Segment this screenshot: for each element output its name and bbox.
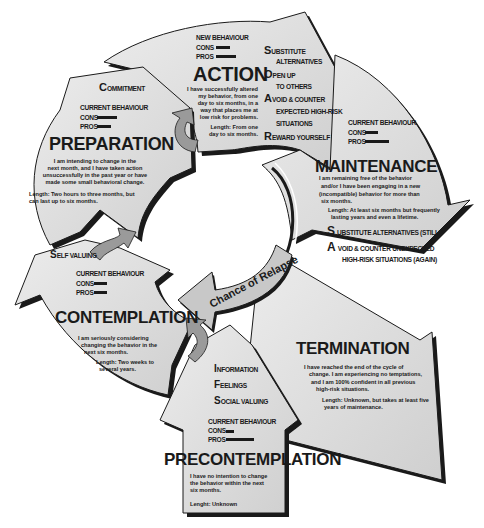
maintenance-length-line: Length: At least six months but frequent… [328, 207, 441, 213]
strategy-text: ALTERNATIVES [276, 58, 323, 65]
action-length-line: Length: From one [210, 124, 258, 130]
termination-desc-line: and I am 100% confident in all previous [311, 379, 415, 385]
contemplation-length-line: several years. [99, 366, 136, 372]
contemplation-desc-line: next six months. [84, 349, 129, 355]
preparation-length-line: Length: Two hours to three months, but [29, 191, 135, 197]
strategy-text: ELF VALUING [57, 252, 97, 259]
preparation-pros-bar [97, 125, 111, 128]
strategy-text: EELINGS [220, 382, 248, 389]
strategy-initial: S [264, 44, 271, 56]
maintenance-pros-bar [365, 140, 389, 143]
contemplation-desc-line: changing the behavior in the [81, 342, 157, 348]
contemplation-title: CONTEMPLATION [55, 308, 198, 327]
precontemplation-desc-line: six months. [190, 487, 222, 493]
contemplation-cons-label: CONS [76, 280, 95, 287]
strategy-text: UBSTITUTE [271, 48, 306, 55]
strategy-text: OMMITMENT [107, 85, 145, 92]
precontemplation-title: PRECONTEMPLATION [164, 450, 341, 469]
strategy-text: NFORMATION [217, 366, 259, 373]
preparation-desc-line: I am intending to change in the [54, 158, 136, 164]
preparation-length-line: can last up to six months. [29, 198, 98, 204]
contemplation-cons-bar [94, 282, 107, 285]
action-title: ACTION [193, 63, 268, 85]
preparation-pros-label: PROS [80, 123, 98, 130]
preparation-desc-line: next month, and I have taken action [48, 165, 143, 171]
action-desc-line: my behavior, from one [198, 93, 258, 99]
maintenance-desc-line: six months. [321, 198, 353, 204]
maintenance-length-line: lasting years and even a lifetime. [331, 214, 419, 220]
strategy-initial: A [327, 240, 336, 254]
action-desc-line: low risk for problems. [200, 114, 259, 120]
action-desc-line: I have successfully altered [187, 86, 258, 92]
action-behaviour-heading: NEW BEHAVIOUR [196, 34, 249, 41]
termination-title: TERMINATION [296, 339, 410, 358]
maintenance-desc-line: (incompatible) behavior for more than [319, 191, 420, 197]
maintenance-pros-label: PROS [348, 138, 366, 145]
preparation-behaviour-heading: CURRENT BEHAVIOUR [80, 104, 149, 111]
contemplation-behaviour-heading: CURRENT BEHAVIOUR [76, 270, 145, 277]
contemplation-desc-line: I am seriously considering [78, 335, 149, 341]
termination-desc-line: I have reached the end of the cycle of [304, 364, 404, 370]
action-desc-line: way that places me at [199, 107, 258, 113]
strategy-text: TO OTHERS [276, 83, 313, 90]
preparation-desc-line: made some small behavioral change. [46, 179, 145, 185]
maintenance-desc-line: I am remaining free of the behavior [319, 175, 413, 181]
precontemplation-pros-label: PROS [208, 436, 226, 443]
stages-of-change-diagram: Chance of Relapse NEW BEHAVIOUR CONS PRO… [0, 0, 484, 528]
strategy-text: UBSTITUTE ALTERNATIVES (STILL) [337, 229, 441, 237]
preparation-cons-bar [97, 116, 117, 119]
precontemplation-desc-line: I have no intention to change [190, 473, 267, 479]
maintenance-desc-line: and/or I have been engaging in a new [321, 183, 421, 189]
contemplation-pros-bar [94, 291, 107, 294]
action-pros-label: PROS [196, 53, 214, 60]
strategy-text: HIGH-RISK SITUATIONS (AGAIN) [342, 256, 437, 264]
preparation-cons-label: CONS [80, 114, 99, 121]
termination-length-line: Length: Unknown, but takes at least five [322, 397, 429, 403]
strategy-initial: R [264, 130, 272, 142]
precontemplation-behaviour-heading: CURRENT BEHAVIOUR [208, 418, 277, 425]
contemplation-pros-label: PROS [76, 289, 94, 296]
action-length-line: day to six months. [209, 131, 259, 137]
maintenance-cons-bar [365, 131, 378, 134]
action-cons-bar [216, 46, 230, 49]
action-cons-label: CONS [196, 44, 215, 51]
strategy-text: VOID & COUNTER UNEXPECTED [338, 245, 435, 252]
precontemplation-desc-line: the behavior within the next [190, 480, 264, 486]
action-desc-line: day to six months, in a [198, 100, 259, 106]
strategy-text: OCIAL VALUING [221, 398, 269, 405]
strategy-initial: A [264, 92, 272, 104]
strategy-text: EXPECTED HIGH-RISK [276, 108, 343, 115]
precontemplation-pros-bar [226, 438, 254, 441]
contemplation-length-line: Length: Two weeks to [96, 359, 155, 365]
maintenance-title: MAINTENANCE [315, 157, 437, 176]
precontemplation-length-line: Lenght: Unknown [190, 501, 238, 507]
maintenance-cons-label: CONS [348, 129, 367, 136]
preparation-desc-line: unsuccessfully in the past year or have [43, 172, 147, 178]
precontemplation-cons-label: CONS [208, 427, 227, 434]
strategy-text: EWARD YOURSELF [272, 134, 330, 141]
strategy-text: VOID & COUNTER [272, 96, 325, 103]
strategy-text: PEN UP [273, 72, 297, 79]
termination-desc-line: change. I am experiencing no temptations… [309, 371, 423, 377]
strategy-initial: S [327, 224, 335, 238]
maintenance-behaviour-heading: CURRENT BEHAVIOUR [348, 119, 417, 126]
precontemplation-cons-bar [226, 430, 234, 433]
strategy-text: SITUATIONS [276, 120, 313, 127]
termination-desc-line: high-risk situations. [316, 386, 370, 392]
strategy-initial: C [99, 81, 107, 93]
preparation-title: PREPARATION [49, 134, 174, 154]
termination-length-line: years of maintenance. [324, 404, 383, 410]
action-pros-bar [216, 55, 236, 58]
